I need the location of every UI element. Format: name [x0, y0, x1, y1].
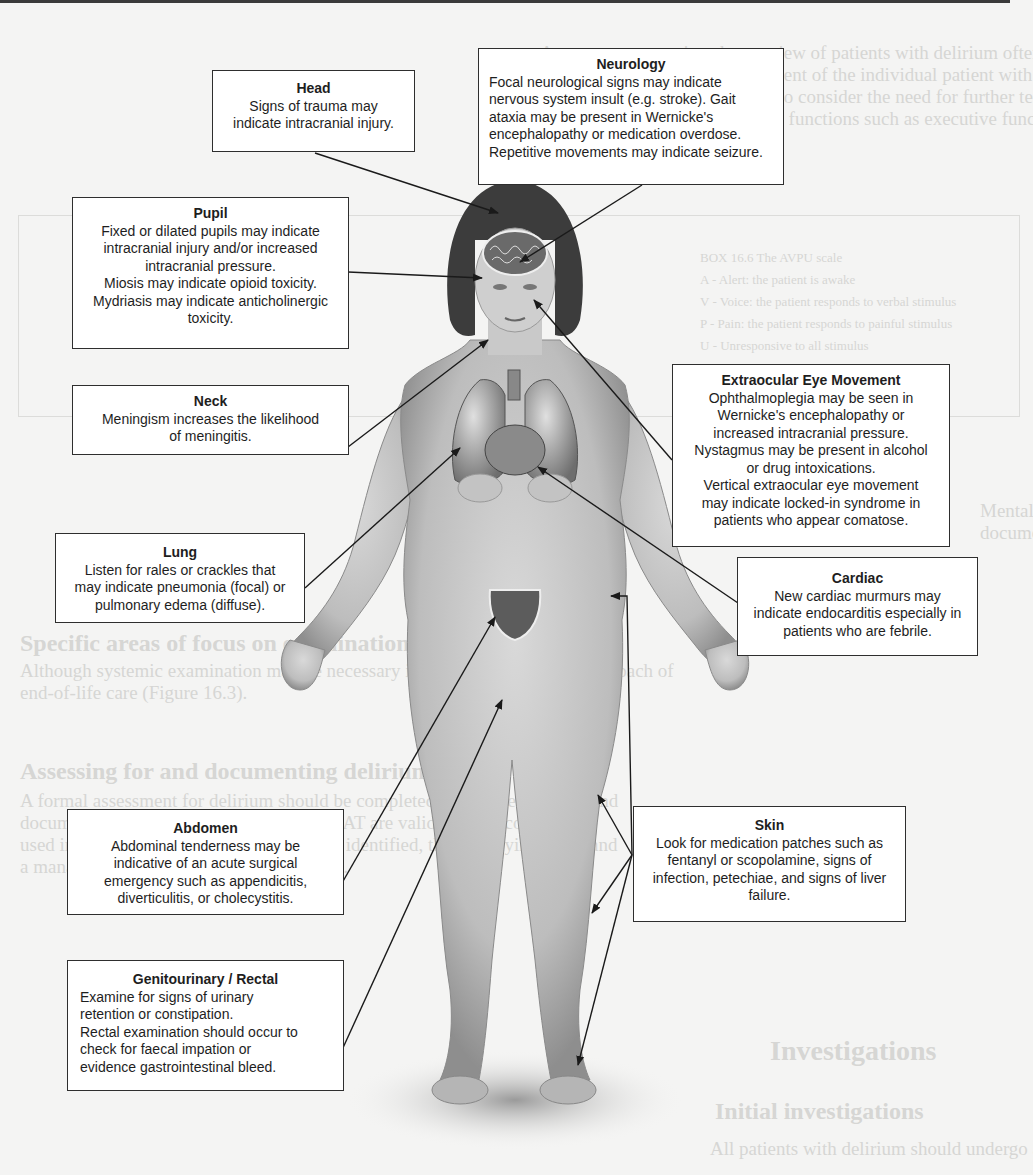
callout-body: Fixed or dilated pupils may indicate int…: [75, 223, 346, 328]
callout-head: Head Signs of trauma may indicate intrac…: [212, 70, 415, 152]
callout-pupil: Pupil Fixed or dilated pupils may indica…: [72, 197, 349, 349]
skin-leader-knee: [598, 795, 632, 855]
right-foot: [540, 1076, 596, 1104]
callout-title: Lung: [58, 544, 302, 562]
callout-title: Skin: [636, 817, 903, 835]
callout-body: New cardiac murmurs may indicate endocar…: [740, 588, 975, 641]
callout-body: Abdominal tenderness may be indicative o…: [72, 838, 339, 908]
callout-body: Look for medication patches such as fent…: [636, 835, 903, 905]
callout-body: Ophthalmoplegia may be seen in Wernicke'…: [676, 390, 946, 530]
left-eye: [493, 284, 507, 290]
callout-body: Meningism increases the likelihood of me…: [79, 411, 342, 446]
callout-skin: Skin Look for medication patches such as…: [633, 806, 906, 922]
callout-title: Cardiac: [740, 570, 975, 588]
callout-neurology: Neurology Focal neurological signs may i…: [478, 48, 784, 185]
callout-title: Extraocular Eye Movement: [676, 372, 946, 390]
callout-title: Abdomen: [72, 820, 339, 838]
callout-title: Neck: [79, 393, 342, 411]
brain: [483, 231, 547, 275]
left-foot: [432, 1076, 488, 1104]
callout-body: Signs of trauma may indicate intracrania…: [219, 98, 408, 133]
callout-neck: Neck Meningism increases the likelihood …: [72, 385, 349, 455]
callout-cardiac: Cardiac New cardiac murmurs may indicate…: [737, 557, 978, 656]
right-breast: [528, 474, 572, 502]
callout-title: Genitourinary / Rectal: [80, 971, 331, 989]
heart: [485, 425, 545, 475]
callout-extraocular-eye-movement: Extraocular Eye Movement Ophthalmoplegia…: [672, 364, 950, 547]
callout-body: Listen for rales or crackles that may in…: [58, 562, 302, 615]
floor-shadow: [345, 1050, 685, 1150]
callout-genitourinary-rectal: Genitourinary / Rectal Examine for signs…: [67, 960, 344, 1091]
right-eye: [523, 284, 537, 290]
callout-body: Examine for signs of urinary retention o…: [80, 989, 331, 1077]
callout-body: Focal neurological signs may indicate ne…: [489, 74, 773, 162]
callout-title: Neurology: [489, 56, 773, 74]
callout-lung: Lung Listen for rales or crackles that m…: [55, 533, 305, 623]
left-breast: [458, 474, 502, 502]
callout-abdomen: Abdomen Abdominal tenderness may be indi…: [67, 809, 344, 915]
callout-title: Pupil: [75, 205, 346, 223]
trachea: [508, 370, 520, 400]
skin-leader-calf: [592, 855, 632, 913]
callout-title: Head: [219, 80, 408, 98]
